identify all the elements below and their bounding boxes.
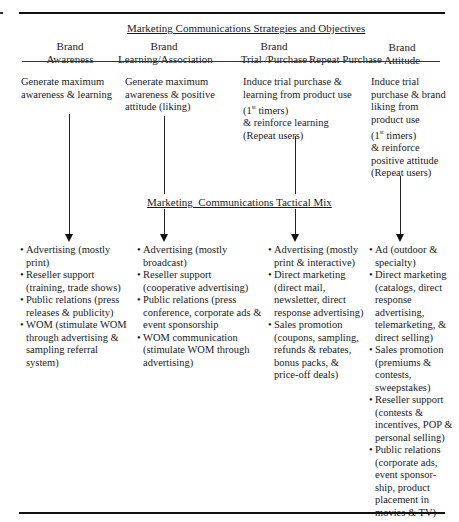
objective-line: attitude (liking) <box>125 101 235 114</box>
objective-line: Induce trial <box>371 76 459 89</box>
tactic-item: •WOM (stimulate WOM through advertising … <box>20 319 132 369</box>
tactic-text: Advertising (mostly print) <box>26 244 110 268</box>
objective-line: liking from <box>371 101 459 114</box>
objective-line: Induce trial purchase & <box>243 76 368 89</box>
header-line2: Awareness <box>35 53 105 66</box>
arrow-line-trial-lower <box>295 209 296 236</box>
tactic-item: •Public relations (press releases & publ… <box>20 294 132 319</box>
tactic-item: •Advertising (mostly print) <box>20 244 132 269</box>
objective-learning: Generate maximum awareness & positive at… <box>125 76 235 114</box>
arrow-down-icon <box>396 234 404 242</box>
tactic-item: •Advertising (mostly broadcast) <box>137 244 265 269</box>
text: (1 <box>371 130 380 141</box>
tactics-awareness: •Advertising (mostly print) •Reseller su… <box>20 244 132 369</box>
tactic-text: Direct marketing (direct mail, newslette… <box>274 269 364 318</box>
tactic-text: WOM (stimulate WOM through advertising &… <box>26 319 127 368</box>
tactic-text: Reseller support (cooperative advertisin… <box>143 269 248 293</box>
tactics-attitude: •Ad (outdoor & specialty) •Direct market… <box>369 244 453 519</box>
objective-line: Generate maximum <box>21 76 131 89</box>
header-line1: Brand <box>381 41 423 54</box>
tactics-learning: •Advertising (mostly broadcast) •Reselle… <box>137 244 265 369</box>
arrow-line-trial-upper <box>295 136 296 194</box>
objective-line: purchase & brand <box>371 89 459 102</box>
tactics-trial-repeat: •Advertising (mostly print & interactive… <box>268 244 366 382</box>
objective-line: awareness & positive <box>125 89 235 102</box>
tactic-item: •WOM communication (stimulate WOM throug… <box>137 332 265 370</box>
tactic-text: Reseller support (training, trade shows) <box>26 269 121 293</box>
header-line1: Brand <box>118 40 210 53</box>
objective-attitude: Induce trial purchase & brand liking fro… <box>371 76 459 180</box>
header-line1: Brand <box>35 40 105 53</box>
objective-line: (1st timers) <box>243 101 368 117</box>
header-repeat-purchase: Repeat Purchase <box>309 40 377 66</box>
arrow-down-icon <box>291 234 299 242</box>
top-rule <box>19 12 445 14</box>
strategies-title: Marketing Communications Strategies and … <box>127 22 365 34</box>
objective-line: & reinforce <box>371 142 459 155</box>
header-line2: Trial /Purchase <box>238 53 310 66</box>
text: timers) <box>384 130 416 141</box>
objective-line: (Repeat users) <box>243 130 368 143</box>
objective-line: awareness & learning <box>21 89 131 102</box>
header-line1 <box>309 40 377 53</box>
objective-line: Generate maximum <box>125 76 235 89</box>
margin-mark <box>0 12 3 14</box>
tactic-item: •Direct marketing (direct mail, newslett… <box>268 269 366 319</box>
tactic-text: Direct marketing (catalogs, direct respo… <box>375 269 446 343</box>
arrow-line-learning-upper <box>164 116 165 194</box>
header-line2: Repeat Purchase <box>309 53 377 66</box>
objective-line: (1st timers) <box>371 126 459 142</box>
tactic-text: Public relations (press releases & publi… <box>26 294 119 318</box>
arrow-line-awareness <box>69 114 70 236</box>
tactic-item: •Reseller support (training, trade shows… <box>20 269 132 294</box>
tactic-text: Advertising (mostly broadcast) <box>143 244 227 268</box>
tactic-text: WOM communication (stimulate WOM through… <box>143 332 250 368</box>
objective-line: learning from product use <box>243 89 368 102</box>
tactic-text: Sales promotion (premiums & contests, sw… <box>375 344 444 393</box>
header-brand-attitude: Brand Attitude <box>381 41 423 67</box>
tactic-text: Sales promotion (coupons, sampling, refu… <box>274 319 359 380</box>
text: (1 <box>243 105 252 116</box>
header-line1: Brand <box>238 40 310 53</box>
tactic-item: •Sales promotion (premiums & contests, s… <box>369 344 453 394</box>
tactic-item: •Public relations (press conference, cor… <box>137 294 265 332</box>
arrow-line-learning-lower <box>164 209 165 236</box>
tactic-item: •Advertising (mostly print & interactive… <box>268 244 366 269</box>
tactic-text: Public relations (corporate ads, event s… <box>375 444 441 518</box>
tactic-text: Reseller support (contests & incentives,… <box>375 394 452 443</box>
objective-line: & reinforce learning <box>243 117 368 130</box>
tactic-item: •Ad (outdoor & specialty) <box>369 244 453 269</box>
tactic-text: Public relations (press conference, corp… <box>143 294 261 330</box>
bottom-rule <box>19 512 445 514</box>
tactic-item: •Public relations (corporate ads, event … <box>369 444 453 519</box>
header-brand-awareness: Brand Awareness <box>35 40 105 66</box>
header-underline <box>22 61 440 62</box>
text: timers) <box>256 105 288 116</box>
objective-awareness: Generate maximum awareness & learning <box>21 76 131 101</box>
tactic-item: •Reseller support (contests & incentives… <box>369 394 453 444</box>
arrow-line-attitude <box>400 176 401 236</box>
objective-line: product use <box>371 114 459 127</box>
header-line2: Learning/Association <box>118 53 210 66</box>
tactical-mix-title: Marketing Communications Tactical Mix <box>147 196 332 208</box>
arrow-down-icon <box>160 234 168 242</box>
header-brand-trial: Brand Trial /Purchase <box>238 40 310 66</box>
objective-line: (Repeat users) <box>371 167 459 180</box>
tactic-item: •Sales promotion (coupons, sampling, ref… <box>268 319 366 382</box>
objective-line: positive attitude <box>371 155 459 168</box>
tactic-item: •Reseller support (cooperative advertisi… <box>137 269 265 294</box>
arrow-down-icon <box>65 234 73 242</box>
objective-trial-repeat: Induce trial purchase & learning from pr… <box>243 76 368 142</box>
tactic-text: Advertising (mostly print & interactive) <box>274 244 358 268</box>
tactic-text: Ad (outdoor & specialty) <box>375 244 437 268</box>
header-brand-learning: Brand Learning/Association <box>118 40 210 66</box>
tactic-item: •Direct marketing (catalogs, direct resp… <box>369 269 453 344</box>
